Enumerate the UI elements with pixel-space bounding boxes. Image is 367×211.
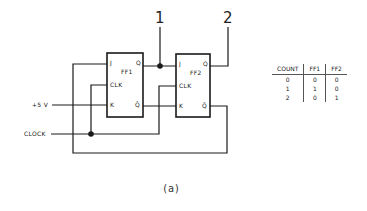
truth-table-header: COUNT FF1 FF2 (272, 64, 347, 75)
ff1-qbar-pin: Q̄ (135, 101, 140, 108)
ff1-clk-wire (91, 85, 107, 134)
node1-label: 1 (155, 9, 165, 27)
node2-label: 2 (223, 9, 233, 27)
ff1-name: FF1 (121, 68, 133, 75)
circuit-wiring (0, 0, 367, 211)
cell-ff2: 0 (326, 75, 347, 85)
cell-ff1: 0 (304, 75, 326, 85)
cell-ff2: 0 (326, 84, 347, 93)
header-count: COUNT (272, 64, 304, 75)
ff2-clk-pin: CLK (179, 82, 191, 89)
cell-ff2: 1 (326, 93, 347, 102)
clock-junction-dot (88, 131, 94, 137)
node1-junction-dot (157, 63, 163, 69)
ff2-q-pin: Q (203, 60, 208, 67)
ff1-k-pin: K (110, 101, 114, 108)
figure-caption: (a) (162, 183, 180, 194)
clock-label: CLOCK (24, 130, 46, 137)
ff1-j-pin: J (110, 59, 112, 66)
supply-label: +5 V (32, 101, 48, 108)
cell-count: 0 (272, 75, 304, 85)
truth-table: COUNT FF1 FF2 0 0 0 1 1 0 2 0 1 (272, 64, 347, 102)
header-ff2: FF2 (326, 64, 347, 75)
cell-count: 1 (272, 84, 304, 93)
clock-wire (51, 86, 176, 134)
cell-ff1: 0 (304, 93, 326, 102)
node2-wire (210, 27, 228, 66)
table-row: 2 0 1 (272, 93, 347, 102)
table-row: 1 1 0 (272, 84, 347, 93)
ff1-clk-pin: CLK (110, 81, 122, 88)
ff2-qbar-pin: Q̄ (202, 102, 207, 109)
ff1-q-pin: Q (136, 59, 141, 66)
ff2-j-pin: J (179, 60, 181, 67)
cell-count: 2 (272, 93, 304, 102)
ff2-k-pin: K (179, 102, 183, 109)
header-ff1: FF1 (304, 64, 326, 75)
table-row: 0 0 0 (272, 75, 347, 85)
cell-ff1: 1 (304, 84, 326, 93)
ff2-name: FF2 (190, 69, 202, 76)
